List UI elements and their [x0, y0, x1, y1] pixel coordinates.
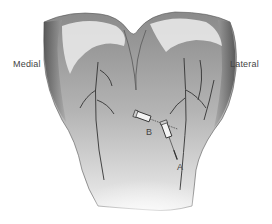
injection-site-a-label: A — [177, 162, 183, 172]
medial-label: Medial — [13, 59, 41, 69]
anatomical-illustration — [0, 0, 272, 224]
lateral-label: Lateral — [230, 59, 259, 69]
injection-site-b-label: B — [146, 127, 152, 137]
